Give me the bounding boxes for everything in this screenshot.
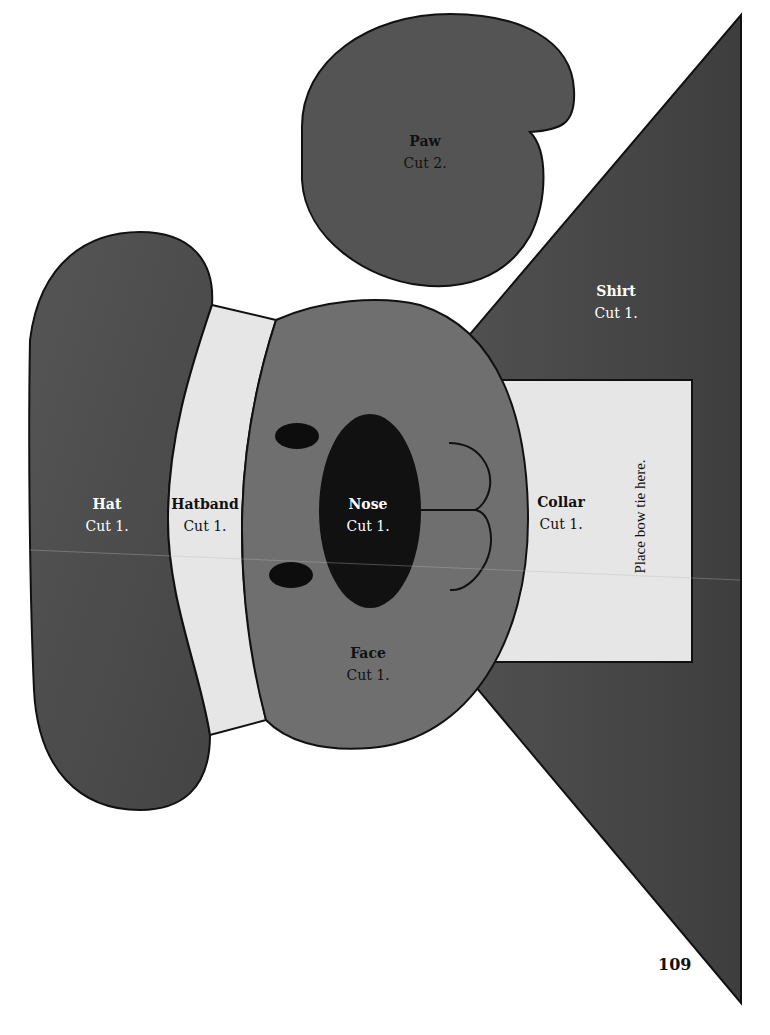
hatband-label: Hatband Cut 1. [171,496,239,534]
hatband-cut: Cut 1. [171,518,239,534]
paw-title: Paw [403,133,446,149]
collar-title: Collar [537,494,585,510]
nose-title: Nose [346,496,389,512]
face-label: Face Cut 1. [346,645,389,683]
page-number: 109 [658,955,691,974]
hat-title: Hat [85,496,128,512]
shirt-label: Shirt Cut 1. [594,283,637,321]
face-cut: Cut 1. [346,667,389,683]
face-title: Face [346,645,389,661]
paw-cut: Cut 2. [403,155,446,171]
eye-upper [275,423,319,449]
hat-cut: Cut 1. [85,518,128,534]
collar-cut: Cut 1. [537,516,585,532]
collar-label: Collar Cut 1. [537,494,585,532]
hat-label: Hat Cut 1. [85,496,128,534]
shirt-cut: Cut 1. [594,305,637,321]
hatband-title: Hatband [171,496,239,512]
eye-lower [269,562,313,588]
nose-cut: Cut 1. [346,518,389,534]
collar-note: Place bow tie here. [632,447,649,587]
paw-label: Paw Cut 2. [403,133,446,171]
shirt-title: Shirt [594,283,637,299]
nose-label: Nose Cut 1. [346,496,389,534]
